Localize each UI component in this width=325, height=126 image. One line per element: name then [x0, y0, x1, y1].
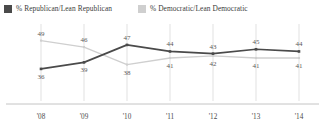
data-point-republican-09: [83, 61, 86, 64]
value-label-democratic-09: 46: [81, 36, 89, 44]
x-tick-13: '13: [252, 113, 261, 121]
legend-item-democratic: % Democratic/Lean Democratic: [138, 4, 248, 13]
data-point-republican-13: [255, 48, 258, 51]
value-label-democratic-11: 41: [167, 62, 175, 70]
value-label-democratic-14: 41: [296, 62, 304, 70]
x-axis-tick-labels: '08'09'10'11'12'13'14: [37, 113, 304, 121]
x-tick-10: '10: [123, 113, 132, 121]
legend-item-republican: % Republican/Lean Republican: [4, 4, 112, 13]
data-point-republican-14: [298, 50, 301, 53]
value-label-democratic-12: 42: [210, 60, 218, 68]
chart-svg: 49463841424141 36394744434544 '08'09'10'…: [0, 22, 325, 126]
value-label-republican-09: 39: [81, 66, 89, 74]
data-point-democratic-08: [40, 39, 42, 41]
legend-label-democratic: % Democratic/Lean Democratic: [150, 4, 248, 13]
value-label-republican-13: 45: [253, 38, 261, 46]
chart-plot-area: 49463841424141 36394744434544 '08'09'10'…: [0, 22, 325, 126]
x-tick-14: '14: [295, 113, 304, 121]
value-label-democratic-08: 49: [38, 30, 46, 38]
line-chart: % Republican/Lean Republican % Democrati…: [0, 0, 325, 126]
value-label-republican-08: 36: [38, 73, 46, 81]
data-point-republican-08: [40, 68, 43, 71]
value-label-republican-14: 44: [296, 40, 304, 48]
data-point-democratic-11: [169, 57, 171, 59]
value-label-republican-11: 44: [167, 40, 175, 48]
chart-legend: % Republican/Lean Republican % Democrati…: [0, 0, 325, 22]
data-point-republican-10: [126, 44, 129, 47]
value-label-democratic-13: 41: [253, 62, 261, 70]
data-point-democratic-14: [298, 57, 300, 59]
x-tick-09: '09: [80, 113, 89, 121]
x-tick-08: '08: [37, 113, 46, 121]
x-tick-11: '11: [166, 113, 175, 121]
data-point-democratic-09: [83, 46, 85, 48]
data-point-democratic-12: [212, 55, 214, 57]
data-point-democratic-13: [255, 57, 257, 59]
data-point-republican-12: [212, 52, 215, 55]
data-point-democratic-10: [126, 63, 128, 65]
legend-label-republican: % Republican/Lean Republican: [16, 4, 112, 13]
data-point-republican-11: [169, 50, 172, 53]
x-tick-12: '12: [209, 113, 218, 121]
value-label-democratic-10: 38: [124, 69, 132, 77]
value-label-republican-12: 43: [210, 43, 218, 51]
legend-swatch-square-democratic-icon: [138, 5, 146, 13]
legend-swatch-square-republican-icon: [4, 5, 12, 13]
value-label-republican-10: 47: [124, 34, 132, 42]
